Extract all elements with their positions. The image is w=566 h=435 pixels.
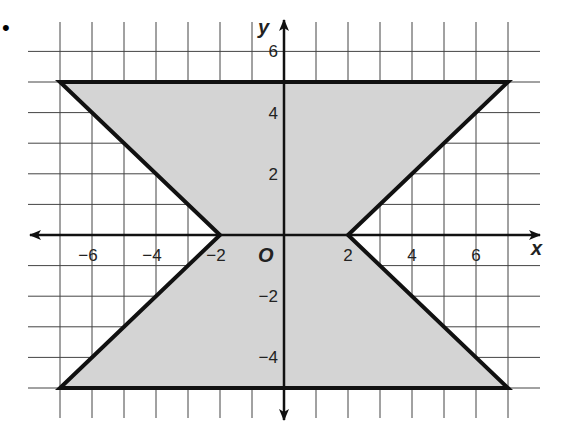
x-tick-label: −6 <box>78 246 97 265</box>
y-tick-label: 4 <box>269 104 278 123</box>
x-tick-label: 2 <box>343 246 352 265</box>
x-tick-label: 6 <box>471 246 480 265</box>
y-tick-label: −4 <box>259 348 278 367</box>
y-tick-label: 6 <box>269 42 278 61</box>
x-tick-label: 4 <box>407 246 416 265</box>
x-axis-label: x <box>530 237 543 259</box>
origin-label: O <box>258 244 274 266</box>
y-tick-label: −2 <box>259 287 278 306</box>
coordinate-plane: −6−4−2246642−2−4 • y x O <box>0 0 566 435</box>
bullet-marker: • <box>2 15 10 40</box>
y-tick-label: 2 <box>269 165 278 184</box>
y-axis-label: y <box>257 16 270 38</box>
x-tick-label: −4 <box>142 246 161 265</box>
x-tick-label: −2 <box>206 246 225 265</box>
